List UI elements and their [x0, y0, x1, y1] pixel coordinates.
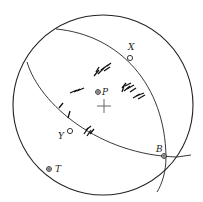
label-b: B	[155, 144, 163, 154]
cluster-upper	[94, 63, 111, 76]
great-circle-2	[27, 62, 191, 157]
label-p: P	[101, 87, 109, 97]
primitive-circle	[13, 15, 193, 195]
label-t: T	[55, 164, 62, 174]
point-p: P	[96, 87, 109, 97]
stereonet-svg: X P Y B T	[0, 0, 203, 202]
stereonet-diagram: X P Y B T	[0, 0, 203, 202]
label-x: X	[127, 42, 135, 52]
cluster-right	[122, 83, 145, 99]
cluster-lower	[84, 126, 94, 136]
point-x: X	[127, 42, 135, 61]
center-cross	[97, 99, 111, 113]
cluster-left	[70, 88, 84, 93]
great-circle-1	[56, 29, 166, 192]
label-y: Y	[58, 131, 65, 141]
point-t: T	[47, 164, 62, 174]
cluster-far-left	[59, 103, 70, 118]
point-y: Y	[58, 128, 73, 141]
